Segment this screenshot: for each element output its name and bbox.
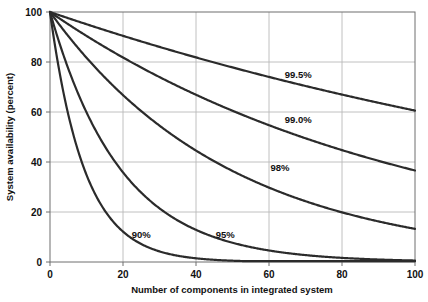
x-axis-title: Number of components in integrated syste… — [131, 284, 333, 295]
x-tick-label: 40 — [190, 269, 202, 280]
y-tick-label: 80 — [31, 57, 43, 68]
x-tick-label: 0 — [47, 269, 53, 280]
y-axis-title: System availability (percent) — [4, 73, 15, 201]
x-tick-label: 100 — [407, 269, 424, 280]
y-tick-label: 0 — [36, 257, 42, 268]
y-tick-label: 40 — [31, 157, 43, 168]
series-label-990: 99.0% — [285, 114, 312, 125]
series-label-90: 90% — [132, 229, 152, 240]
y-tick-label: 20 — [31, 207, 43, 218]
chart-container: 020406080100 020406080100 99.5%99.0%98%9… — [0, 0, 428, 302]
y-tick-label: 100 — [25, 7, 42, 18]
chart-background — [0, 0, 428, 302]
x-tick-label: 80 — [336, 269, 348, 280]
series-label-98: 98% — [270, 162, 290, 173]
y-tick-label: 60 — [31, 107, 43, 118]
x-tick-label: 60 — [263, 269, 275, 280]
availability-chart: 020406080100 020406080100 99.5%99.0%98%9… — [0, 0, 428, 302]
series-label-995: 99.5% — [285, 69, 312, 80]
series-label-95: 95% — [216, 229, 236, 240]
x-tick-label: 20 — [117, 269, 129, 280]
